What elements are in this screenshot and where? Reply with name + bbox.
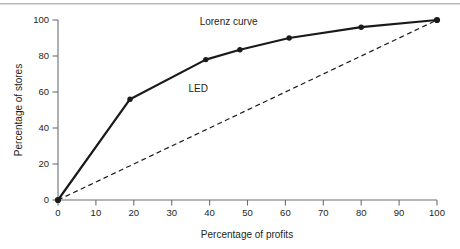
y-axis-title: Percentage of stores [13,64,24,156]
x-axis-ticks [58,200,437,206]
x-tick-label: 10 [91,207,102,218]
y-axis-ticks [53,20,59,200]
data-point-marker [434,17,440,23]
x-tick-label: 60 [280,207,291,218]
x-tick-label: 70 [318,207,329,218]
data-point-marker [237,47,242,52]
x-tick-label: 40 [204,207,215,218]
x-tick-label: 80 [356,207,367,218]
x-tick-label: 90 [394,207,405,218]
x-tick-label: 0 [55,207,60,218]
data-point-marker [55,197,61,203]
x-tick-label: 50 [242,207,253,218]
data-point-marker [359,25,364,30]
x-tick-label: 100 [429,207,445,218]
x-tick-label: 20 [129,207,140,218]
data-point-marker [127,97,132,102]
x-tick-label: 30 [166,207,177,218]
y-tick-label: 40 [38,122,49,133]
data-point-marker [203,57,208,62]
y-tick-label: 80 [38,50,49,61]
y-axis-tick-labels: 020406080100 [33,14,49,205]
x-axis-title: Percentage of profits [201,229,293,240]
led-label: LED [189,83,208,94]
y-tick-label: 0 [44,194,49,205]
lorenz-curve-label: Lorenz curve [200,16,258,27]
lorenz-curve-chart: 020406080100 0102030405060708090100 Lore… [0,0,460,249]
series-layer [55,17,440,203]
x-axis-tick-labels: 0102030405060708090100 [55,207,445,218]
y-tick-label: 20 [38,158,49,169]
figure-canvas: 020406080100 0102030405060708090100 Lore… [0,0,460,249]
y-tick-label: 60 [38,86,49,97]
y-tick-label: 100 [33,14,49,25]
data-point-marker [286,35,291,40]
lorenz-curve-markers [55,17,440,203]
